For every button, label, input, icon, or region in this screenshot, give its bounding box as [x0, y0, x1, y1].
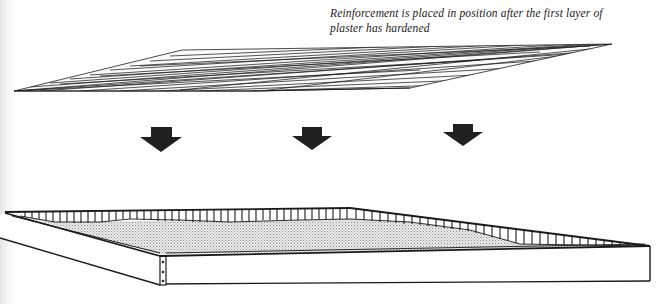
- down-arrow-2: [292, 127, 332, 150]
- illustration: [0, 0, 670, 304]
- reinforcement-mesh: [14, 44, 612, 91]
- down-arrow-3: [443, 124, 483, 146]
- diagram-page: Reinforcement is placed in position afte…: [0, 0, 670, 304]
- down-arrow-1: [140, 127, 182, 152]
- plaster-tray: [0, 208, 650, 285]
